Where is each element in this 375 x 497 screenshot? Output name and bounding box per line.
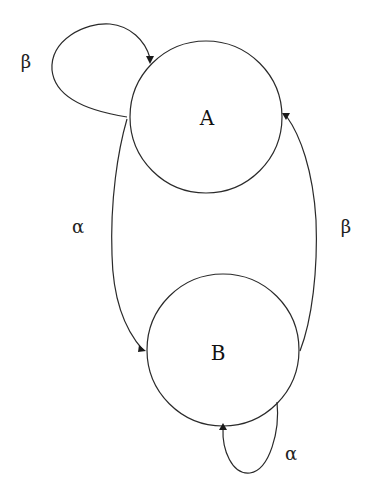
edge-a-to-b-label: α: [72, 216, 84, 237]
arrow-head-icon: [138, 345, 146, 352]
state-diagram: A B β α β α: [0, 0, 375, 497]
edge-a-to-a-label: β: [21, 51, 31, 72]
edge-a-to-b-path: [112, 119, 143, 350]
edge-a-to-b: α: [72, 119, 146, 352]
node-a: A: [130, 41, 282, 193]
node-a-label: A: [199, 106, 215, 130]
edge-b-to-a-label: β: [341, 216, 351, 237]
edge-b-to-a: β: [282, 113, 351, 351]
edge-b-to-b-label: α: [285, 443, 297, 464]
node-b: B: [147, 274, 299, 426]
node-b-label: B: [211, 341, 226, 365]
